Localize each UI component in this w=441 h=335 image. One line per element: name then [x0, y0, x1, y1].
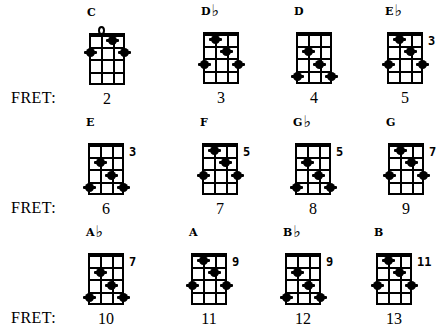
chord-name: D — [294, 5, 304, 18]
fret-number: 5 — [385, 89, 425, 107]
fret-line — [205, 46, 237, 48]
fret-position-label: 3 — [428, 34, 435, 48]
finger-dot — [85, 183, 94, 192]
fret-line — [297, 157, 329, 159]
finger-dot — [282, 293, 291, 302]
fret-line — [378, 292, 410, 294]
fret-position-label: 5 — [243, 145, 250, 159]
finger-dot — [326, 183, 335, 192]
flat-symbol: ♭ — [212, 1, 220, 20]
fret-line — [297, 169, 329, 171]
fret-position-label: 7 — [429, 145, 436, 159]
chord-letter: D — [201, 5, 211, 18]
fret-line — [389, 71, 421, 73]
fret-line — [287, 279, 319, 281]
finger-dot — [385, 171, 394, 180]
chord-letter: C — [87, 6, 96, 19]
finger-dot — [384, 60, 393, 69]
finger-dot — [304, 281, 313, 290]
finger-dot — [314, 171, 323, 180]
fret-number: 4 — [294, 89, 334, 107]
fret-number: 13 — [374, 310, 414, 328]
finger-dot — [293, 72, 302, 81]
chord-name: B — [374, 226, 383, 239]
fret-line — [204, 182, 236, 184]
fret-line — [204, 169, 236, 171]
fret-line — [193, 279, 225, 281]
fret-line — [298, 46, 330, 48]
fret-line — [205, 71, 237, 73]
fret-line — [389, 58, 421, 60]
finger-dot — [315, 60, 324, 69]
nut-bar — [89, 33, 125, 37]
fret-line — [298, 58, 330, 60]
chord-name: A♭ — [86, 226, 103, 239]
chord-name: E♭ — [385, 5, 402, 18]
finger-dot — [210, 146, 219, 155]
chord-name: G — [386, 116, 395, 129]
fret-line — [90, 157, 122, 159]
fret-number: 6 — [86, 200, 126, 218]
fret-line — [287, 292, 319, 294]
fret-number: 3 — [201, 89, 241, 107]
finger-dot — [407, 281, 416, 290]
finger-dot — [200, 60, 209, 69]
finger-dot — [199, 171, 208, 180]
fret-line — [90, 279, 122, 281]
chord-letter: B — [283, 226, 292, 239]
fret-line — [378, 267, 410, 269]
finger-dot — [327, 72, 336, 81]
fret-line — [91, 72, 123, 74]
finger-dot — [211, 35, 220, 44]
finger-dot — [188, 281, 197, 290]
finger-dot — [292, 183, 301, 192]
finger-dot — [107, 281, 116, 290]
chord-name: C — [87, 6, 96, 19]
chord-name: E — [86, 116, 94, 129]
chord-name: F — [200, 116, 208, 129]
nut-bar — [88, 253, 124, 257]
finger-dot — [120, 48, 129, 57]
fret-line — [389, 46, 421, 48]
fret-line — [90, 182, 122, 184]
chord-letter: F — [200, 116, 208, 129]
fret-line — [90, 292, 122, 294]
flat-symbol: ♭ — [96, 222, 104, 241]
fret-position-label: 7 — [129, 255, 136, 269]
chord-letter: G — [293, 116, 302, 129]
finger-dot — [85, 293, 94, 302]
finger-dot — [396, 146, 405, 155]
finger-dot — [316, 293, 325, 302]
chord-letter: G — [386, 116, 395, 129]
nut-bar — [387, 32, 423, 36]
fret-number: 2 — [87, 90, 127, 108]
finger-dot — [373, 281, 382, 290]
finger-dot — [108, 36, 117, 45]
fret-position-label: 3 — [129, 145, 136, 159]
chord-letter: A — [189, 226, 198, 239]
chord-letter: E — [385, 5, 393, 18]
flat-symbol: ♭ — [394, 1, 402, 20]
finger-dot — [384, 256, 393, 265]
chord-letter: D — [294, 5, 304, 18]
fret-number: 12 — [283, 310, 323, 328]
fret-line — [205, 58, 237, 60]
fret-number: 7 — [200, 200, 240, 218]
finger-dot — [395, 35, 404, 44]
chord-name: B♭ — [283, 226, 301, 239]
fret-number: 9 — [386, 200, 426, 218]
fret-position-label: 9 — [326, 255, 333, 269]
nut-bar — [376, 253, 412, 257]
chord-name: A — [189, 226, 198, 239]
fret-line — [204, 157, 236, 159]
finger-dot — [222, 281, 231, 290]
fret-line — [91, 47, 123, 49]
finger-dot — [418, 60, 427, 69]
finger-dot — [233, 171, 242, 180]
nut-bar — [295, 143, 331, 147]
nut-bar — [202, 143, 238, 147]
fret-position-label: 5 — [336, 145, 343, 159]
finger-dot — [199, 256, 208, 265]
fret-number: 8 — [293, 200, 333, 218]
fret-number: 10 — [86, 310, 126, 328]
